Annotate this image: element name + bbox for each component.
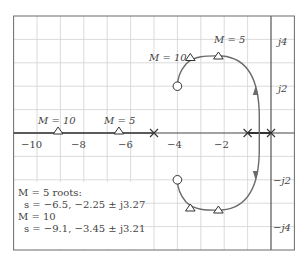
tick-label-imag: −j2 <box>273 175 291 186</box>
label-m10-upper: M = 10 <box>148 52 187 63</box>
tick-label-real: −10 <box>21 139 42 150</box>
note-line-3: M = 10 <box>18 211 56 222</box>
label-m10-real: M = 10 <box>37 115 76 126</box>
tick-label-real: −8 <box>71 139 86 150</box>
tick-label-imag: j2 <box>276 83 287 94</box>
note-line-2: s = −6.5, −2.25 ± j3.27 <box>24 199 145 210</box>
note-line-4: s = −9.1, −3.45 ± j3.21 <box>24 223 145 234</box>
label-m5-upper: M = 5 <box>213 34 245 45</box>
tick-label-imag: −j4 <box>273 222 291 233</box>
triangle-m5-real-icon <box>114 127 124 134</box>
triangle-m10-upper-icon <box>186 54 196 61</box>
zero-circle-icon <box>173 176 182 185</box>
tick-label-real: −4 <box>167 139 182 150</box>
tick-label-real: −6 <box>118 139 133 150</box>
arrow-down-icon <box>253 171 259 180</box>
zero-circle-icon <box>173 82 182 91</box>
tick-label-imag: j4 <box>276 36 287 47</box>
locus-upper-branch <box>177 56 259 133</box>
note-line-1: M = 5 roots: <box>18 187 82 198</box>
arrow-up-icon <box>253 86 259 95</box>
root-locus-plot: M = 10 M = 5 M = 10 M = 5 −10 −8 −6 −4 −… <box>0 0 305 256</box>
tick-label-real: −2 <box>214 139 229 150</box>
triangle-m10-real-icon <box>53 127 63 134</box>
label-m5-real: M = 5 <box>103 115 135 126</box>
